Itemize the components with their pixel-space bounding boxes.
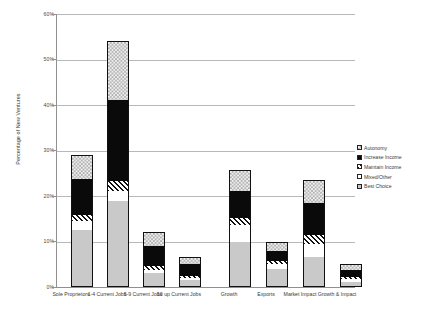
bar-segment-mixed-other[interactable] <box>340 279 362 281</box>
y-axis: 60% 50% 40% 30% 20% 10% 0% <box>0 0 54 288</box>
bar-segment-mixed-other[interactable] <box>107 191 129 201</box>
legend-swatch-icon <box>357 145 362 150</box>
legend-swatch-icon <box>357 155 362 160</box>
bar-segment-mixed-other[interactable] <box>266 264 288 269</box>
y-axis-title: Percentage of New Ventures <box>15 59 21 199</box>
legend-label: Mixed/Other <box>364 174 392 180</box>
bar-segment-best-choice[interactable] <box>143 273 165 287</box>
legend-swatch-icon <box>357 164 362 169</box>
y-tick-label: 10% <box>8 238 54 244</box>
bar-segment-mixed-other[interactable] <box>303 244 325 258</box>
x-tick-label-market-impact: Market Impact <box>280 291 320 298</box>
legend-label: Increase Income <box>364 154 402 160</box>
legend-item-increase-income[interactable]: Increase Income <box>357 153 427 163</box>
bar-series-group <box>56 14 355 287</box>
bar-segment-mixed-other[interactable] <box>71 221 93 230</box>
bar-segment-maintain-income[interactable] <box>143 266 165 270</box>
bar-segment-increase-income[interactable] <box>107 100 129 182</box>
bar-segment-mixed-other[interactable] <box>229 225 251 241</box>
legend-label: Autonomy <box>364 145 387 151</box>
legend: AutonomyIncrease IncomeMaintain IncomeMi… <box>357 143 427 191</box>
bar-segment-autonomy[interactable] <box>229 170 251 192</box>
bar-segment-best-choice[interactable] <box>266 269 288 287</box>
legend-item-autonomy[interactable]: Autonomy <box>357 143 427 153</box>
y-tick-label: 60% <box>8 11 54 17</box>
bar-segment-best-choice[interactable] <box>340 282 362 287</box>
legend-item-best-choice[interactable]: Best Choice <box>357 181 427 191</box>
bar-segment-best-choice[interactable] <box>229 242 251 288</box>
legend-item-maintain-income[interactable]: Maintain Income <box>357 162 427 172</box>
bar-segment-maintain-income[interactable] <box>71 215 93 221</box>
bar-segment-maintain-income[interactable] <box>266 261 288 265</box>
bar-segment-autonomy[interactable] <box>71 155 93 179</box>
legend-label: Maintain Income <box>364 164 401 170</box>
bar-segment-maintain-income[interactable] <box>340 277 362 279</box>
bar-segment-increase-income[interactable] <box>143 246 165 266</box>
bar-segment-mixed-other[interactable] <box>143 270 165 274</box>
bar-segment-autonomy[interactable] <box>340 264 362 270</box>
bar-segment-autonomy[interactable] <box>179 257 201 264</box>
bar-segment-maintain-income[interactable] <box>179 276 201 278</box>
bar-segment-maintain-income[interactable] <box>107 181 129 190</box>
legend-item-mixed-other[interactable]: Mixed/Other <box>357 172 427 182</box>
bar-segment-maintain-income[interactable] <box>303 235 325 244</box>
bar-segment-increase-income[interactable] <box>266 251 288 261</box>
bar-segment-increase-income[interactable] <box>179 264 201 276</box>
bar-segment-maintain-income[interactable] <box>229 218 251 225</box>
bar-segment-best-choice[interactable] <box>179 280 201 287</box>
bar-segment-increase-income[interactable] <box>340 270 362 277</box>
x-tick-label-growth-impact: Growth & Impact <box>317 291 357 298</box>
x-axis-line <box>56 287 355 288</box>
bar-segment-best-choice[interactable] <box>107 201 129 287</box>
stacked-bar-chart: 60% 50% 40% 30% 20% 10% 0% Percentage of… <box>0 0 428 332</box>
y-tick-label: 0% <box>8 284 54 290</box>
bar-segment-autonomy[interactable] <box>266 242 288 251</box>
bar-segment-autonomy[interactable] <box>303 180 325 203</box>
bar-segment-increase-income[interactable] <box>71 179 93 214</box>
bar-segment-mixed-other[interactable] <box>179 278 201 280</box>
bar-segment-autonomy[interactable] <box>143 232 165 246</box>
bar-segment-best-choice[interactable] <box>303 257 325 287</box>
x-axis: Sole Proprietors 1-4 Current Jobs 5-9 Cu… <box>56 291 355 321</box>
bar-segment-autonomy[interactable] <box>107 41 129 99</box>
legend-label: Best Choice <box>364 183 391 189</box>
legend-swatch-icon <box>357 174 362 179</box>
x-tick-label-10-up-current-jobs: 10 up Current Jobs <box>156 291 202 298</box>
bar-segment-increase-income[interactable] <box>229 191 251 217</box>
bar-segment-increase-income[interactable] <box>303 203 325 235</box>
bar-segment-best-choice[interactable] <box>71 230 93 287</box>
legend-swatch-icon <box>357 184 362 189</box>
